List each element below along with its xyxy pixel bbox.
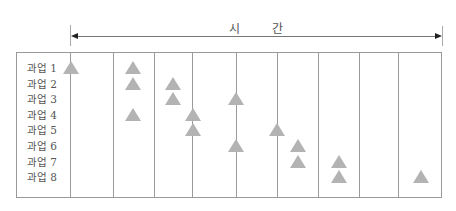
column-line — [236, 52, 237, 198]
task-label: 과업 6 — [27, 140, 57, 152]
task-label: 과업 7 — [27, 156, 57, 168]
column-line — [154, 52, 155, 198]
triangle-marker-icon — [290, 139, 306, 152]
triangle-marker-icon — [125, 108, 141, 121]
triangle-marker-icon — [63, 61, 79, 74]
triangle-marker-icon — [331, 170, 347, 183]
triangle-marker-icon — [165, 92, 181, 105]
time-axis-tick-end — [442, 26, 443, 46]
arrow-right-icon — [435, 33, 442, 39]
task-label: 과업 2 — [27, 78, 57, 90]
triangle-marker-icon — [290, 155, 306, 168]
triangle-marker-icon — [413, 170, 429, 183]
task-label: 과업 8 — [27, 171, 57, 183]
arrow-left-icon — [71, 33, 78, 39]
task-label: 과업 4 — [27, 109, 57, 121]
column-line — [359, 52, 360, 198]
task-chart-frame — [16, 52, 442, 198]
triangle-marker-icon — [125, 77, 141, 90]
triangle-marker-icon — [228, 92, 244, 105]
triangle-marker-icon — [185, 108, 201, 121]
triangle-marker-icon — [331, 155, 347, 168]
triangle-marker-icon — [269, 123, 285, 136]
column-line — [398, 52, 399, 198]
triangle-marker-icon — [165, 77, 181, 90]
triangle-marker-icon — [228, 139, 244, 152]
triangle-marker-icon — [125, 61, 141, 74]
time-axis-title: 시 간 — [229, 19, 297, 36]
task-label: 과업 3 — [27, 93, 57, 105]
triangle-marker-icon — [185, 123, 201, 136]
column-line — [113, 52, 114, 198]
task-label: 과업 1 — [27, 62, 57, 74]
column-line — [318, 52, 319, 198]
time-axis-line — [74, 36, 438, 37]
task-label: 과업 5 — [27, 124, 57, 136]
